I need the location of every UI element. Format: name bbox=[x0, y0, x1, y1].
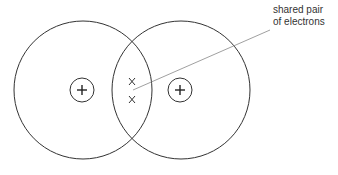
label-line-2: of electrons bbox=[273, 16, 325, 28]
shared-electron-bottom bbox=[129, 96, 135, 103]
right-plus-icon bbox=[175, 85, 185, 95]
shared-pair-label: shared pair of electrons bbox=[273, 4, 325, 28]
label-line-1: shared pair bbox=[273, 4, 325, 16]
shared-electron-top bbox=[129, 78, 135, 85]
left-plus-icon bbox=[77, 85, 87, 95]
